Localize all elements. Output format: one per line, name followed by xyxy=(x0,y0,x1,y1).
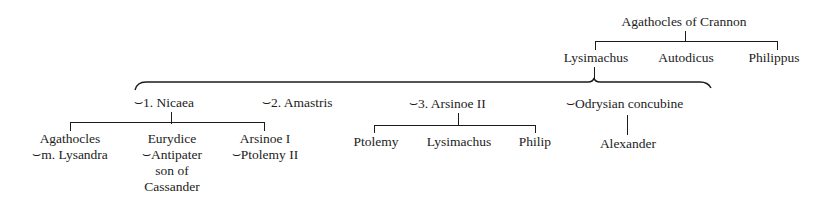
connector-concubine-down xyxy=(627,115,628,135)
marriage-symbol-icon: ⌣ xyxy=(142,147,151,162)
marriage-symbol-icon: ⌣ xyxy=(32,147,41,162)
node-agathocles: Agathocles xyxy=(20,131,120,147)
node-lysimachus-son: Lysimachus xyxy=(414,134,504,150)
marriage-symbol-icon: ⌣ xyxy=(262,95,271,110)
node-eurydice: Eurydice xyxy=(122,131,222,147)
marriage-symbol-icon: ⌣ xyxy=(232,147,241,162)
spouse-lysandra: ⌣m. Lysandra xyxy=(14,147,126,163)
spouse-antipater: ⌣Antipater xyxy=(122,147,222,163)
node-alexander: Alexander xyxy=(588,136,668,152)
node-arsinoe-i: Arsinoe I xyxy=(220,131,310,147)
marriage-symbol-icon: ⌣ xyxy=(134,95,143,110)
marriage-symbol-icon: ⌣ xyxy=(409,96,418,111)
spouse-arsinoe-ii: ⌣3. Arsinoe II xyxy=(409,96,486,112)
connector-to-ptolemy xyxy=(374,125,375,133)
antipater-note-line-2: Cassander xyxy=(122,179,222,195)
connector-to-agathocles xyxy=(70,122,71,131)
marriage-symbol-icon: ⌣ xyxy=(566,96,575,111)
node-philip: Philip xyxy=(510,134,560,150)
connector-to-philip xyxy=(535,125,536,133)
connector-to-arsinoe-i xyxy=(264,122,265,131)
spouse-nicaea: ⌣1. Nicaea xyxy=(134,95,194,111)
node-ptolemy: Ptolemy xyxy=(344,134,408,150)
spouse-ptolemy-ii: ⌣Ptolemy II xyxy=(216,147,314,163)
spouse-odrysian-concubine: ⌣Odrysian concubine xyxy=(566,96,683,112)
connector-nicaea-siblings xyxy=(70,122,265,123)
antipater-note-line-1: son of xyxy=(122,163,222,179)
connector-arsinoe-ii-siblings xyxy=(374,125,536,126)
spouse-amastris: ⌣2. Amastris xyxy=(262,95,333,111)
